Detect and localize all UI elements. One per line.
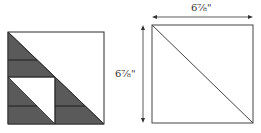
width-label: 6⅞" — [191, 2, 212, 13]
left-quilt-block — [8, 32, 104, 124]
height-dimension-arrow — [141, 25, 145, 123]
right-cut-square — [152, 25, 253, 123]
arrow-up-icon — [141, 25, 145, 30]
width-dimension-arrow — [152, 15, 253, 19]
arrow-down-icon — [141, 118, 145, 123]
height-label: 6⅞" — [115, 68, 136, 79]
arrow-right-icon — [248, 15, 253, 19]
diagram-canvas — [0, 0, 261, 133]
arrow-left-icon — [152, 15, 157, 19]
